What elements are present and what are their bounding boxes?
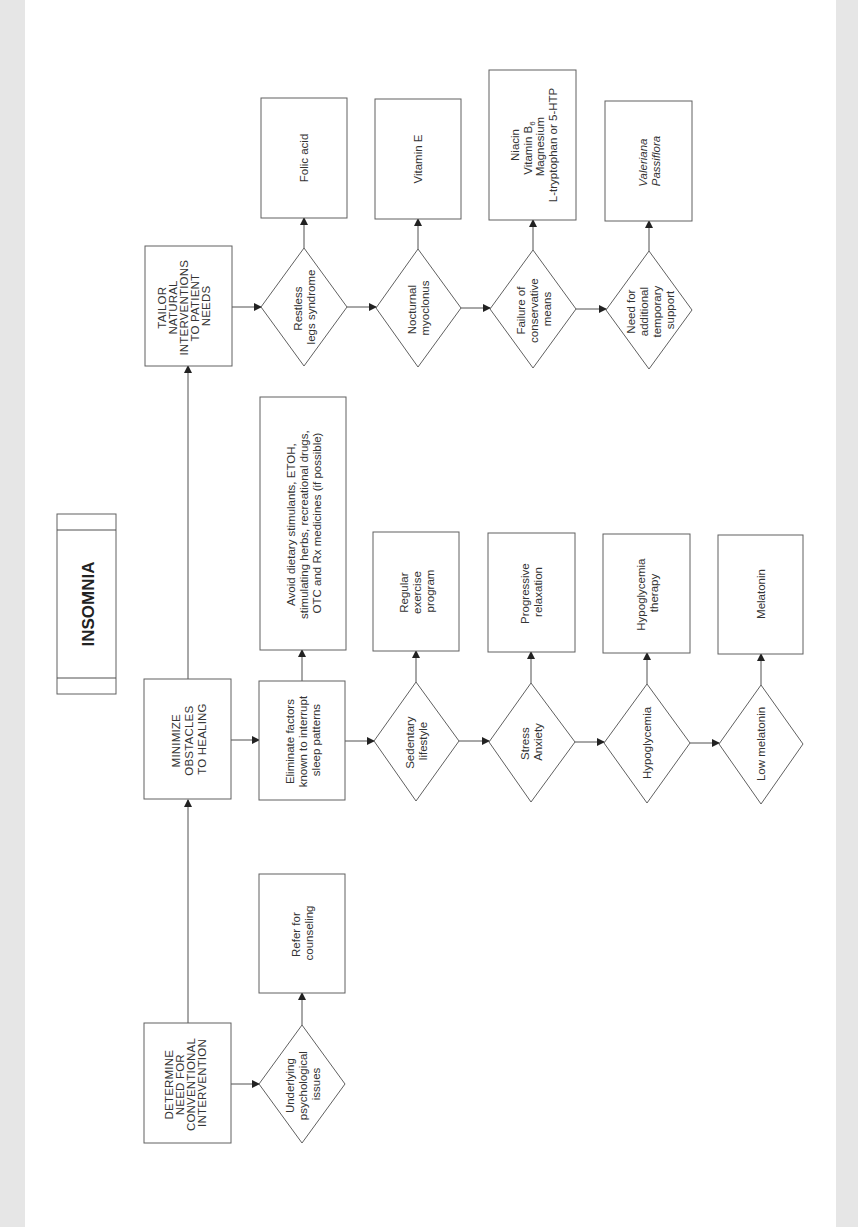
action-valeriana-passiflora: Valeriana Passiflora — [605, 101, 692, 221]
minimize-header-line: MINIMIZE — [170, 714, 182, 767]
svg-text:Nocturnal myoclonus: Nocturnal myoclonus — [406, 280, 431, 335]
condition-hypoglycemia: Hypoglycemia — [604, 684, 690, 803]
svg-text:Progressive relaxation: Progressive relaxation — [519, 560, 544, 624]
action-text: Folic acid — [298, 134, 310, 183]
tailor-header-line: NEEDS — [200, 286, 212, 327]
condition-text: lifestyle — [417, 722, 429, 760]
condition-text: conservative — [528, 278, 540, 343]
action-text: Progressive — [519, 563, 531, 624]
action-text: Niacin — [509, 129, 521, 161]
condition-text: Low melatonin — [755, 707, 767, 781]
condition-text: means — [541, 291, 553, 326]
action-text: relaxation — [532, 567, 544, 617]
action-avoid-stimulants: Avoid dietary stimulants, ETOH, stimulat… — [260, 397, 346, 650]
action-text: L-tryptophan or 5-HTP — [547, 87, 559, 202]
action-text: Passiflora — [650, 136, 662, 187]
svg-text:Niacin: Niacin — [509, 129, 521, 161]
condition-text: additional — [638, 287, 650, 336]
step-eliminate-factors: Eliminate factors known to interrupt sle… — [259, 681, 345, 800]
svg-text:Avoid dietary stimulants, ETO: Avoid dietary stimulants, ETOH, stimulat… — [285, 427, 323, 619]
condition-text: legs syndrome — [305, 270, 317, 345]
condition-text: temporary — [651, 285, 663, 337]
action-regular-exercise: Regular exercise program — [373, 532, 459, 651]
action-text: OTC and Rx medicines (if possible) — [311, 432, 323, 613]
svg-text:Refer for counseling: Refer for counseling — [290, 906, 315, 961]
action-hypoglycemia-therapy: Hypoglycemia therapy — [603, 534, 690, 653]
action-text: Hypoglycemia — [635, 558, 647, 631]
action-text: Vitamin E — [412, 134, 424, 183]
title-box: INSOMNIA — [57, 514, 116, 694]
action-melatonin: Melatonin — [718, 535, 803, 654]
svg-text:Stress Anxiety: Stress Anxiety — [519, 723, 544, 761]
svg-text:Regular exercise p: Regular exercise program — [398, 568, 436, 614]
action-text: program — [424, 570, 436, 613]
action-text: therapy — [648, 574, 660, 613]
condition-restless-legs: Restless legs syndrome — [261, 248, 347, 366]
condition-text: Hypoglycemia — [641, 706, 653, 779]
action-text: Refer for — [290, 912, 302, 957]
action-text: stimulating herbs, recreational drugs, — [298, 430, 310, 619]
step-text: known to interrupt — [297, 695, 309, 787]
determine-header-line: INTERVENTION — [196, 1039, 208, 1127]
condition-text: Stress — [519, 727, 531, 760]
action-text: counseling — [303, 906, 315, 961]
action-progressive-relaxation: Progressive relaxation — [488, 533, 575, 652]
action-text: Vitamin B — [522, 125, 534, 174]
svg-text:MINIMIZE OBSTACLES: MINIMIZE OBSTACLES TO HEALING — [170, 702, 208, 775]
action-text: exercise — [411, 571, 423, 614]
condition-failure-conservative: Failure of conservative means — [490, 250, 576, 368]
condition-text: myoclonus — [419, 280, 431, 335]
condition-text: Need for — [625, 289, 637, 333]
action-text: Melatonin — [755, 569, 767, 619]
condition-underlying-psychological: Underlying psychological issues — [259, 1025, 345, 1143]
minimize-header-line: OBSTACLES — [183, 706, 195, 776]
condition-text: Sedentary — [404, 716, 416, 769]
condition-text: Underlying — [284, 1058, 296, 1113]
condition-text: psychological — [297, 1051, 309, 1120]
action-text: Magnesium — [534, 117, 546, 176]
minimize-header-line: TO HEALING — [196, 703, 208, 774]
condition-nocturnal-myoclonus: Nocturnal myoclonus — [376, 249, 461, 367]
title-insomnia: INSOMNIA — [79, 562, 98, 647]
minimize-header-box: MINIMIZE OBSTACLES TO HEALING — [144, 679, 231, 799]
action-folic-acid: Folic acid — [261, 98, 347, 218]
insomnia-flowchart: INSOMNIA TAILOR NATURAL INTERVENTIONS TO… — [0, 0, 858, 1227]
action-text: Regular — [398, 572, 410, 612]
tailor-header-box: TAILOR NATURAL INTERVENTIONS TO PATIENT … — [145, 246, 232, 366]
condition-text: Anxiety — [532, 723, 544, 761]
condition-stress-anxiety: Stress Anxiety — [489, 683, 575, 802]
condition-text: issues — [310, 1067, 322, 1100]
svg-text:Valeriana Passiflora: Valeriana Passiflora — [637, 135, 662, 186]
condition-sedentary-lifestyle: Sedentary lifestyle — [374, 682, 459, 801]
action-refer-counseling: Refer for counseling — [259, 874, 345, 993]
action-text: Valeriana — [637, 139, 649, 187]
condition-text: support — [664, 290, 676, 329]
step-text: sleep patterns — [310, 704, 322, 776]
svg-text:Eliminate factors known: Eliminate factors known to interrupt sle… — [284, 693, 322, 788]
action-vitamin-e: Vitamin E — [375, 99, 461, 219]
condition-text: Restless — [292, 286, 304, 330]
determine-header-box: DETERMINE NEED FOR CONVENTIONAL INTERVEN… — [144, 1023, 231, 1143]
step-text: Eliminate factors — [284, 699, 296, 784]
condition-need-support: Need for additional temporary support — [606, 251, 692, 369]
condition-text: Failure of — [515, 286, 527, 335]
condition-text: Nocturnal — [406, 285, 418, 334]
svg-text:DETERMINE NEED FOR: DETERMINE NEED FOR CONVENTIONAL INTERVEN… — [163, 1035, 208, 1131]
action-niacin-group: Niacin Vitamin B6 Magnesium L-tryptophan… — [489, 70, 576, 220]
condition-low-melatonin: Low melatonin — [719, 685, 803, 804]
action-text: Avoid dietary stimulants, ETOH, — [285, 443, 297, 606]
